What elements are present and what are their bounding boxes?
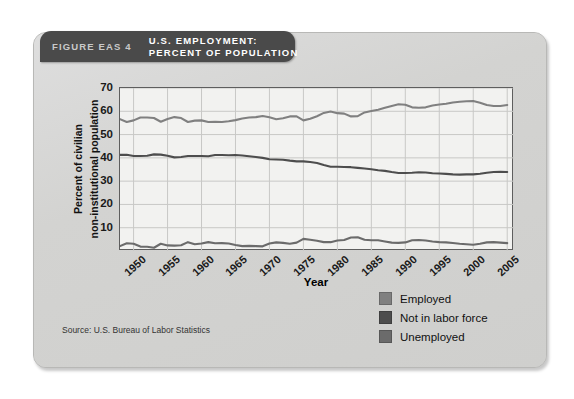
x-axis-tick-label: 2000 <box>461 253 487 278</box>
figure-title-line1: U.S. EMPLOYMENT: <box>149 35 258 46</box>
chart-svg <box>120 88 514 251</box>
x-axis-tick-label: 1980 <box>325 253 351 278</box>
x-axis-title: Year <box>119 276 513 288</box>
x-axis-tick-label: 1960 <box>189 253 215 278</box>
figure-title-line2: PERCENT OF POPULATION <box>149 47 299 58</box>
figure-card: FIGURE EAS 4 U.S. EMPLOYMENT: PERCENT OF… <box>33 32 547 368</box>
legend-label: Not in labor force <box>400 312 488 324</box>
y-axis-title-line2: non-institutional population <box>88 99 100 238</box>
legend-item: Not in labor force <box>379 310 488 325</box>
legend-swatch <box>379 311 392 324</box>
figure-header-banner: FIGURE EAS 4 U.S. EMPLOYMENT: PERCENT OF… <box>40 31 295 62</box>
y-axis-tick-label: 60 <box>100 104 113 116</box>
y-axis-tick-label: 30 <box>100 174 113 186</box>
y-axis-tick-label: 10 <box>100 221 113 233</box>
plot-area-wrapper: 70605040302010 1950195519601965197019751… <box>119 87 513 250</box>
legend-swatch <box>379 292 392 305</box>
y-axis-tick-label: 70 <box>100 81 113 93</box>
y-axis-title: Percent of civilian non-institutional po… <box>78 81 94 256</box>
source-note: Source: U.S. Bureau of Labor Statistics <box>62 325 210 335</box>
x-axis-tick-label: 1955 <box>155 253 181 278</box>
x-axis-tick-label: 1965 <box>223 253 249 278</box>
figure-title: U.S. EMPLOYMENT: PERCENT OF POPULATION <box>149 35 299 58</box>
x-axis-tick-label: 1950 <box>121 253 147 278</box>
y-axis-tick-label: 20 <box>100 197 113 209</box>
legend-label: Unemployed <box>400 331 465 343</box>
y-axis-tick-label: 50 <box>100 128 113 140</box>
y-axis-title-line1: Percent of civilian <box>72 124 84 214</box>
y-axis-tick-label: 40 <box>100 151 113 163</box>
chart-legend: EmployedNot in labor forceUnemployed <box>379 291 488 348</box>
x-axis-tick-label: 1995 <box>427 253 453 278</box>
figure-page: FIGURE EAS 4 U.S. EMPLOYMENT: PERCENT OF… <box>0 0 574 399</box>
x-axis-tick-label: 1985 <box>359 253 385 278</box>
x-axis-tick-label: 1990 <box>393 253 419 278</box>
figure-number-label: FIGURE EAS 4 <box>52 41 132 52</box>
legend-label: Employed <box>400 293 451 305</box>
legend-item: Employed <box>379 291 488 306</box>
legend-swatch <box>379 330 392 343</box>
x-axis-tick-label: 1970 <box>257 253 283 278</box>
plot-area <box>119 87 513 250</box>
x-axis-tick-label: 1975 <box>291 253 317 278</box>
legend-item: Unemployed <box>379 329 488 344</box>
x-axis-tick-label: 2005 <box>495 253 521 278</box>
